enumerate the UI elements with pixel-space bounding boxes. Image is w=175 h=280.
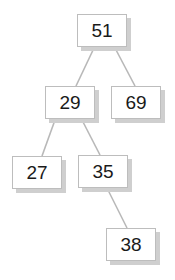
edge-51-29 xyxy=(76,48,94,86)
tree-node-69: 69 xyxy=(111,86,161,119)
node-value: 27 xyxy=(12,156,62,189)
edge-29-35 xyxy=(82,120,100,155)
node-value: 38 xyxy=(106,228,156,261)
node-value: 51 xyxy=(77,14,127,47)
node-value: 69 xyxy=(111,86,161,119)
node-value: 35 xyxy=(78,155,128,188)
tree-node-51: 51 xyxy=(77,14,127,47)
node-value: 29 xyxy=(45,86,95,119)
tree-node-38: 38 xyxy=(106,228,156,261)
tree-node-29: 29 xyxy=(45,86,95,119)
edge-29-27 xyxy=(42,120,55,156)
edge-51-69 xyxy=(115,48,135,86)
edge-35-38 xyxy=(108,190,127,228)
tree-node-27: 27 xyxy=(12,156,62,189)
tree-node-35: 35 xyxy=(78,155,128,188)
